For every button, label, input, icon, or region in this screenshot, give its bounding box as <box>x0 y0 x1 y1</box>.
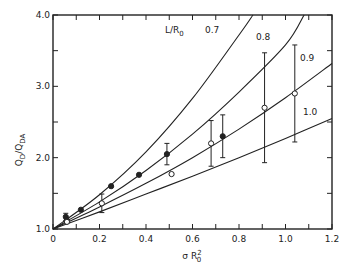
x-tick-label: 1.0 <box>278 234 293 244</box>
x-tick-label: 0.2 <box>92 234 106 244</box>
open-data-point <box>262 105 267 110</box>
curve-label: 0.7 <box>205 25 219 35</box>
theory-curve <box>53 15 304 229</box>
legend-title: L/R0 <box>165 25 184 38</box>
y-tick-label: 2.0 <box>36 153 51 163</box>
plot-axes <box>53 15 332 229</box>
filled-data-point <box>164 152 169 157</box>
filled-data-point <box>136 172 141 177</box>
open-data-point <box>169 171 174 176</box>
x-tick-label: 0.6 <box>185 234 200 244</box>
curve-label: 0.9 <box>300 53 315 63</box>
x-tick-label: 0.4 <box>139 234 154 244</box>
theory-curves: 0.70.80.91.0 <box>53 15 332 229</box>
y-tick-label: 1.0 <box>36 224 51 234</box>
y-tick-label: 4.0 <box>36 10 51 20</box>
x-axis-label: σ R20 <box>182 249 201 264</box>
data-points <box>63 45 297 225</box>
x-tick-label: 0.8 <box>232 234 247 244</box>
plot-frame <box>53 15 332 229</box>
curve-label: 1.0 <box>303 107 318 117</box>
curve-label: 0.8 <box>256 32 271 42</box>
theory-curve <box>53 118 332 229</box>
y-tick-label: 3.0 <box>36 81 51 91</box>
axis-ticks <box>53 15 332 229</box>
open-data-point <box>64 219 69 224</box>
open-data-point <box>209 141 214 146</box>
x-tick-label: 1.2 <box>325 234 339 244</box>
chart: 0.70.80.91.0 00.20.40.60.81.01.21.02.03.… <box>0 0 348 272</box>
x-tick-label: 0 <box>50 234 56 244</box>
filled-data-point <box>78 207 83 212</box>
y-axis-label: QD/QDA <box>14 133 27 166</box>
filled-data-point <box>109 184 114 189</box>
open-data-point <box>292 91 297 96</box>
open-data-point <box>99 201 104 206</box>
filled-data-point <box>220 134 225 139</box>
